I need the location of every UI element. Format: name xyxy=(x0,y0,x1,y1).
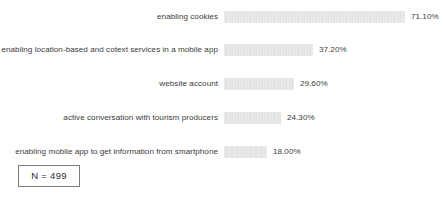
bar-row: enabling cookies 71.10% xyxy=(0,6,443,28)
bar-fill xyxy=(224,44,313,56)
bar-track xyxy=(224,146,267,158)
sample-size-annotation: N = 499 xyxy=(18,165,80,187)
bar-fill xyxy=(224,78,294,90)
bar-value-label: 18.00% xyxy=(273,141,301,163)
bar-row: enabling location-based and cotext servi… xyxy=(0,39,443,61)
bar-fill xyxy=(224,11,405,23)
bar-value-label: 24.30% xyxy=(287,107,315,129)
bar-category-label: enabling mobile app to get information f… xyxy=(15,141,218,163)
bar-track xyxy=(224,112,281,124)
bar-category-label: website account xyxy=(159,73,218,95)
bar-fill xyxy=(224,146,267,158)
bar-track xyxy=(224,11,405,23)
bar-row: website account 29.60% xyxy=(0,73,443,95)
bar-fill xyxy=(224,112,281,124)
bar-value-label: 37.20% xyxy=(319,39,347,61)
bar-track xyxy=(224,78,294,90)
bar-category-label: enabling location-based and cotext servi… xyxy=(1,39,218,61)
bar-category-label: active conversation with tourism produce… xyxy=(63,107,218,129)
bar-row: active conversation with tourism produce… xyxy=(0,107,443,129)
bar-track xyxy=(224,44,313,56)
bar-category-label: enabling cookies xyxy=(157,6,218,28)
bar-row: enabling mobile app to get information f… xyxy=(0,141,443,163)
bar-value-label: 71.10% xyxy=(411,6,439,28)
horizontal-bar-chart: enabling cookies 71.10% enabling locatio… xyxy=(0,0,443,199)
bars-area: enabling cookies 71.10% enabling locatio… xyxy=(0,0,443,168)
bar-value-label: 29.60% xyxy=(300,73,328,95)
